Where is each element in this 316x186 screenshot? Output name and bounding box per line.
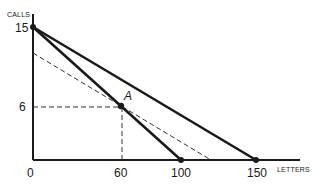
budget-line-steep	[33, 27, 181, 160]
y-tick-15: 15	[15, 21, 29, 35]
chart-canvas: CALLS 15 6 0 60 100 150 LETTERS A	[0, 0, 316, 186]
x-tick-60: 60	[114, 166, 128, 180]
point-a-label: A	[123, 89, 132, 103]
point-x-150	[253, 157, 259, 163]
x-axis-label: LETTERS	[277, 166, 310, 173]
point-a	[118, 103, 124, 109]
point-x-100	[178, 157, 184, 163]
y-axis-label: CALLS	[7, 11, 30, 18]
y-tick-6: 6	[19, 100, 26, 114]
x-tick-0: 0	[27, 166, 34, 180]
point-y-intercept	[30, 24, 36, 30]
budget-line-flat	[33, 27, 256, 160]
x-tick-150: 150	[247, 166, 267, 180]
x-tick-100: 100	[171, 166, 191, 180]
